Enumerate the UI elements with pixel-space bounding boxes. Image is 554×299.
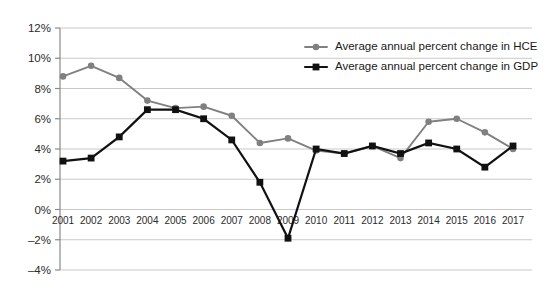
data-point-hce — [200, 103, 207, 110]
x-axis-label: 2001 — [52, 215, 75, 226]
legend-label-gdp: Average annual percent change in GDP — [335, 60, 538, 72]
legend-marker-hce — [313, 44, 320, 51]
data-point-gdp — [60, 158, 67, 165]
data-point-hce — [60, 73, 67, 80]
line-chart: 12%10%8%6%4%2%0%–2%–4% 20012002200320042… — [0, 0, 554, 299]
x-axis-label: 2002 — [80, 215, 103, 226]
data-point-hce — [116, 75, 123, 82]
x-axis-label: 2010 — [305, 215, 328, 226]
data-point-gdp — [88, 155, 95, 162]
x-axis-label: 2017 — [502, 215, 525, 226]
x-axis-label: 2011 — [333, 215, 355, 226]
data-point-hce — [88, 63, 95, 70]
data-point-gdp — [369, 143, 376, 150]
data-point-hce — [453, 115, 460, 122]
data-point-gdp — [313, 146, 320, 153]
x-axis-label: 2004 — [136, 215, 159, 226]
x-axis-label: 2005 — [164, 215, 187, 226]
data-point-hce — [144, 97, 151, 104]
x-axis-label: 2006 — [193, 215, 216, 226]
x-axis-label: 2014 — [418, 215, 441, 226]
data-point-gdp — [285, 235, 292, 242]
x-axis-label: 2015 — [446, 215, 469, 226]
data-point-gdp — [341, 150, 348, 157]
data-point-hce — [425, 118, 432, 125]
data-point-gdp — [144, 106, 151, 113]
y-axis-group: 12%10%8%6%4%2%0%–2%–4% — [28, 22, 60, 276]
data-point-gdp — [510, 143, 517, 150]
y-axis-label: 8% — [34, 83, 51, 95]
data-point-hce — [228, 112, 235, 119]
y-axis-label: 6% — [34, 113, 51, 125]
y-axis-label: 2% — [34, 173, 51, 185]
x-axis-label: 2013 — [389, 215, 412, 226]
x-axis-label: 2003 — [108, 215, 131, 226]
y-axis-label: 0% — [34, 204, 51, 216]
data-point-hce — [482, 129, 489, 136]
data-point-gdp — [453, 146, 460, 153]
data-point-gdp — [397, 150, 404, 157]
x-axis-label: 2007 — [221, 215, 244, 226]
y-axis-label: 4% — [34, 143, 51, 155]
x-axis-label: 2008 — [249, 215, 272, 226]
data-point-gdp — [228, 137, 235, 144]
data-point-hce — [285, 135, 292, 142]
y-axis-label: 10% — [28, 52, 51, 64]
data-point-gdp — [116, 134, 123, 141]
data-point-hce — [257, 140, 264, 147]
y-axis-label: –2% — [28, 234, 51, 246]
data-point-gdp — [481, 164, 488, 171]
x-axis-label: 2012 — [361, 215, 384, 226]
legend-label-hce: Average annual percent change in HCE — [335, 40, 538, 52]
x-axis-label: 2016 — [474, 215, 497, 226]
data-point-gdp — [200, 115, 207, 122]
series-line-hce — [63, 66, 513, 158]
data-point-gdp — [172, 106, 179, 113]
chart-canvas: 12%10%8%6%4%2%0%–2%–4% 20012002200320042… — [0, 0, 554, 299]
legend-marker-gdp — [313, 64, 320, 71]
data-point-gdp — [256, 179, 263, 186]
data-point-gdp — [425, 140, 432, 147]
x-axis-labels-group: 2001200220032004200520062007200820092010… — [52, 215, 525, 226]
y-axis-label: 12% — [28, 22, 51, 34]
legend-group: Average annual percent change in HCEAver… — [305, 40, 538, 72]
y-axis-label: –4% — [28, 264, 51, 276]
